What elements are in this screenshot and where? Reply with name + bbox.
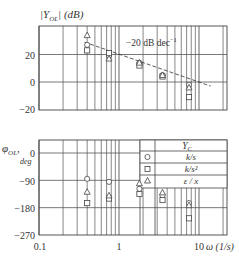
square-marker: [85, 201, 90, 206]
legend-label-k-s2: k/s²: [185, 164, 198, 174]
x-axis-label: ω (1/s): [206, 241, 235, 253]
ytick-minus270-deg: −270: [14, 230, 35, 241]
square-marker: [85, 48, 90, 53]
ytick-20: 20: [25, 50, 35, 61]
legend: YC k/s k/s² ε / x: [140, 140, 227, 235]
square-marker: [186, 216, 191, 221]
circle-marker: [85, 176, 90, 181]
ytick-minus180-deg: −180: [14, 203, 35, 214]
square-marker: [186, 95, 191, 100]
ytick-0: 0: [30, 77, 35, 88]
triangle-marker: [84, 189, 90, 195]
ytick-0-deg: 0: [30, 148, 35, 159]
xtick-0.1: 0.1: [34, 241, 47, 252]
square-marker: [160, 197, 165, 202]
triangle-marker: [160, 189, 166, 195]
bode-plot-figure: |YOL| (dB) −20 dB dec−1 φOL, deg 20 0 −2…: [0, 0, 239, 269]
legend-label-k-s: k/s: [186, 152, 196, 162]
ytick-minus90-deg: −90: [19, 176, 35, 187]
magnitude-axis-label: |YOL| (dB): [40, 8, 84, 23]
xtick-1: 1: [117, 241, 122, 252]
phase-axis-label: φOL,: [2, 142, 20, 157]
circle-marker: [106, 179, 111, 184]
circle-marker: [85, 42, 90, 47]
legend-label-eps-x: ε / x: [184, 176, 199, 186]
ytick-minus20: −20: [19, 104, 35, 115]
xtick-10: 10: [194, 241, 204, 252]
square-marker: [137, 191, 142, 196]
circle-marker: [137, 186, 142, 191]
triangle-marker: [84, 32, 90, 38]
slope-annotation: −20 dB dec−1: [126, 36, 177, 48]
